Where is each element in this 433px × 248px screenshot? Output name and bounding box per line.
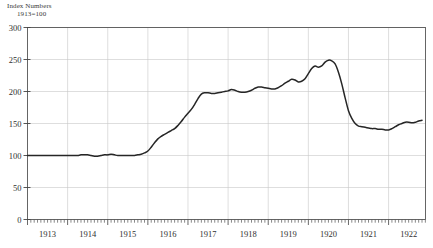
- chart-canvas: 300250200150100500 191319141915191619171…: [0, 0, 433, 248]
- grid-layer: [28, 28, 426, 220]
- x-axis-tick-label: 1914: [79, 229, 97, 239]
- y-axis-tick-label: 100: [9, 151, 22, 161]
- y-axis-tick-label: 150: [9, 119, 22, 129]
- x-axis-tick-label: 1913: [39, 229, 56, 239]
- y-axis-tick-label: 200: [9, 87, 22, 97]
- x-axis-tick-label: 1916: [159, 229, 176, 239]
- y-axis-tick-label: 0: [17, 215, 21, 225]
- x-axis-tick-label: 1920: [320, 229, 337, 239]
- y-axis-tick-label: 50: [13, 183, 22, 193]
- x-axis-labels: 1913191419151916191719181919192019211922: [39, 229, 417, 239]
- series-layer: [28, 60, 423, 156]
- x-axis-tick-label: 1922: [400, 229, 417, 239]
- x-axis-tick-label: 1921: [360, 229, 377, 239]
- x-axis-tick-label: 1915: [119, 229, 136, 239]
- y-axis-labels: 300250200150100500: [9, 23, 22, 225]
- y-axis-ticks: [24, 28, 31, 220]
- x-axis-tick-label: 1918: [240, 229, 257, 239]
- x-axis-tick-label: 1919: [280, 229, 297, 239]
- x-axis-ticks: [28, 220, 426, 226]
- y-axis-tick-label: 300: [9, 23, 22, 33]
- price-index-chart: Index Numbers 1913=100 30025020015010050…: [0, 0, 433, 248]
- x-axis-tick-label: 1917: [200, 229, 217, 239]
- price-index-line: [28, 60, 423, 156]
- y-axis-tick-label: 250: [9, 55, 22, 65]
